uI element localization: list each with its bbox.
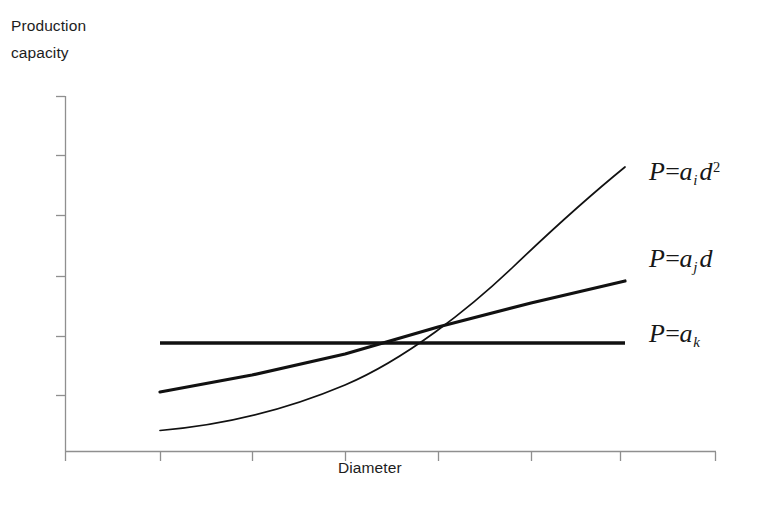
annotation-quadratic-equals: = (665, 157, 679, 186)
annotation-linear-variable: d (700, 244, 713, 273)
annotation-constant-lhs: P (649, 319, 665, 348)
chart-figure: Production capacity (0, 0, 772, 510)
annotation-constant-equals: = (665, 319, 679, 348)
annotation-quadratic: P=aid2 (649, 157, 721, 189)
annotation-quadratic-subscript: i (693, 172, 700, 188)
x-axis-title: Diameter (338, 459, 402, 477)
annotation-quadratic-lhs: P (649, 157, 665, 186)
annotation-quadratic-variable: d (700, 157, 713, 186)
y-axis-ticks (56, 97, 65, 396)
series-line-linear (160, 281, 625, 392)
annotation-linear-lhs: P (649, 244, 665, 273)
annotation-constant-coefficient: a (679, 319, 692, 348)
annotation-constant-subscript: k (693, 334, 702, 350)
annotation-linear-coefficient: a (679, 244, 692, 273)
annotation-quadratic-coefficient: a (679, 157, 692, 186)
annotation-quadratic-exponent: 2 (713, 159, 721, 175)
annotation-linear-equals: = (665, 244, 679, 273)
annotation-linear-subscript: j (693, 259, 700, 275)
annotation-constant: P=ak (649, 319, 702, 351)
annotation-linear: P=ajd (649, 244, 713, 276)
